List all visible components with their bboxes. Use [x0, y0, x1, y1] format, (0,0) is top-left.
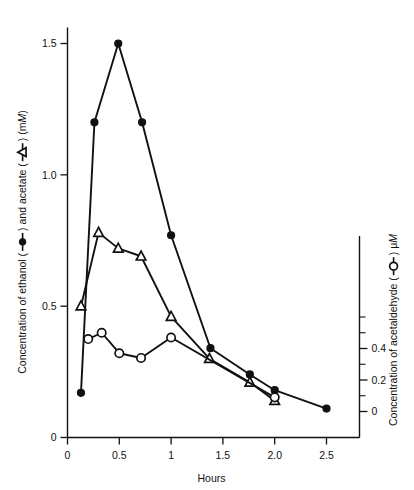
left-axis-ticks: 00.51.01.5: [42, 37, 68, 443]
left-tick-label: 1.0: [42, 169, 57, 181]
open-triangle-marker: [166, 311, 176, 320]
x-tick-label: 0: [65, 449, 71, 461]
x-axis-ticks: 00.511.52.02.5: [65, 438, 334, 461]
left-tick-label: 1.5: [42, 37, 57, 49]
filled-circle-marker: [115, 40, 122, 47]
series-layer: [76, 40, 330, 412]
filled-circle-marker: [77, 389, 84, 396]
x-tick-label: 2.5: [319, 449, 334, 461]
left-axis-title: Concentration of ethanol () and acetate …: [16, 110, 28, 373]
open-circle-glyph: [390, 262, 398, 270]
line-chart-svg: 00.51.01.5 00.511.52.02.5 00.20.4 Hours …: [0, 0, 414, 490]
filled-circle-marker: [207, 345, 214, 352]
open-triangle-marker: [18, 143, 26, 161]
right-tick-label: 0.4: [372, 342, 387, 354]
open-triangle-marker: [136, 251, 146, 260]
axis-title-text: M: [16, 114, 28, 123]
x-axis-title: Hours: [197, 472, 225, 484]
right-tick-label: 0: [372, 405, 378, 417]
chart-figure: 00.51.01.5 00.511.52.02.5 00.20.4 Hours …: [0, 0, 414, 490]
axis-title-text: ) μ: [387, 243, 399, 255]
filled-circle-marker: [323, 405, 330, 412]
open-triangle-glyph: [18, 148, 26, 157]
x-tick-label: 1: [168, 449, 174, 461]
axis-title-text: ) and acetate (: [16, 163, 28, 231]
axis-title-text: Concentration of ethanol (: [16, 252, 28, 373]
x-tick-label: 1.5: [216, 449, 231, 461]
left-tick-label: 0.5: [42, 300, 57, 312]
series-line-acetaldehyde: [88, 333, 274, 398]
open-circle-marker: [167, 333, 175, 341]
axis-title-text: M: [387, 234, 399, 243]
filled-circle-glyph: [19, 239, 26, 246]
filled-circle-marker: [168, 232, 175, 239]
open-circle-marker: [390, 257, 398, 275]
open-circle-marker: [115, 349, 123, 357]
series-line-acetate: [81, 233, 275, 401]
filled-circle-marker: [91, 119, 98, 126]
right-axis-title: Concentration of acetaldehyde () μM: [387, 234, 399, 426]
right-tick-label: 0.2: [372, 374, 387, 386]
open-circle-marker: [97, 329, 105, 337]
open-triangle-marker: [76, 301, 86, 310]
axis-title-text: Concentration of acetaldehyde (: [387, 277, 399, 426]
open-circle-marker: [137, 354, 145, 362]
open-triangle-marker: [94, 227, 104, 236]
filled-circle-marker: [19, 233, 26, 251]
x-tick-label: 0.5: [112, 449, 127, 461]
open-circle-marker: [270, 393, 278, 401]
axis-title-text: ): [16, 110, 28, 114]
right-axis-ticks: 00.20.4: [360, 317, 387, 417]
left-tick-label: 0: [51, 431, 57, 443]
filled-circle-marker: [139, 119, 146, 126]
series-acetaldehyde: [84, 329, 279, 402]
x-tick-label: 2.0: [267, 449, 282, 461]
axis-title-text: ) (m: [16, 122, 28, 141]
open-circle-marker: [84, 335, 92, 343]
